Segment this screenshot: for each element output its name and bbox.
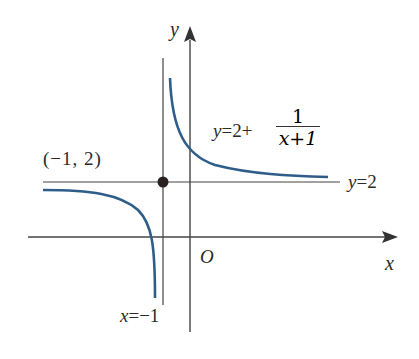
- function-fraction: 1 x+1: [276, 106, 320, 149]
- horizontal-asymptote-label: y=2: [348, 171, 377, 193]
- center-point-label: (−1, 2): [43, 148, 102, 170]
- fraction-denominator: x+1: [279, 127, 318, 149]
- y-axis-label: y: [170, 18, 179, 41]
- curve-lower-branch: [43, 190, 155, 298]
- x-axis-label: x: [385, 252, 394, 275]
- function-label: y=2+: [213, 120, 252, 142]
- function-label-eq: =2+: [221, 120, 252, 141]
- origin-label: O: [200, 246, 214, 268]
- center-point: [158, 177, 169, 188]
- y-axis-arrow-icon: [184, 26, 196, 42]
- fraction-numerator: 1: [292, 106, 304, 126]
- vertical-asymptote-label: x=−1: [120, 305, 159, 327]
